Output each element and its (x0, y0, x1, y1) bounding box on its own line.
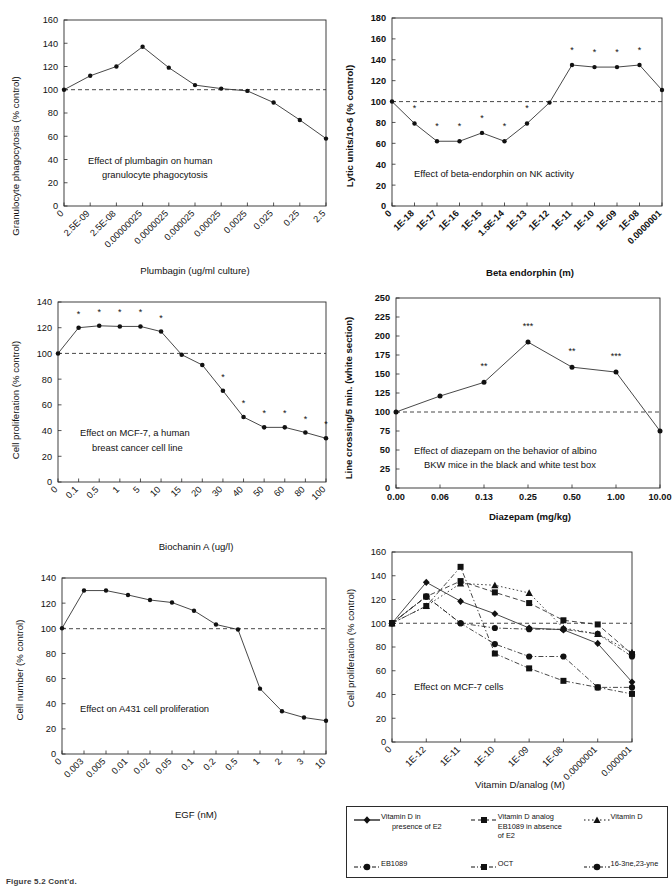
panel-annotation-line1: Effect on MCF-7, a human (80, 427, 190, 438)
svg-text:1E-09: 1E-09 (594, 208, 618, 232)
svg-text:120: 120 (43, 62, 58, 72)
svg-text:1.5E-14: 1.5E-14 (476, 208, 506, 238)
x-axis-ticklabels: 01E-121E-111E-101E-091E-080.00000010.000… (383, 739, 634, 783)
y-axis-title: Cell proliferation (% control) (10, 341, 21, 459)
svg-text:0.003: 0.003 (62, 756, 85, 779)
svg-text:5: 5 (131, 484, 142, 495)
legend-item-16-3ne-23-yne[interactable]: 16-3ne,23-yne (583, 859, 661, 873)
svg-text:**: ** (568, 346, 576, 356)
svg-text:80: 80 (42, 375, 52, 385)
svg-text:2: 2 (273, 756, 284, 767)
svg-text:0.0000001: 0.0000001 (561, 744, 599, 782)
chart-panel-beta-endorphin: Lytic units/10-6 (% control) 02040608010… (340, 6, 670, 282)
svg-text:*: * (159, 313, 163, 323)
x-axis-title: Plumbagin (ug/ml culture) (140, 265, 249, 276)
legend-item-oct[interactable]: OCT (470, 859, 583, 873)
svg-text:100: 100 (309, 484, 327, 502)
data-series (56, 323, 329, 440)
y-axis-title: Line crossing/5 min. (white section) (343, 317, 354, 480)
svg-text:0.06: 0.06 (431, 492, 449, 502)
y-axis-title: Cell number (% control) (14, 620, 25, 721)
svg-text:250: 250 (375, 293, 390, 303)
svg-text:0: 0 (49, 484, 60, 495)
svg-text:80: 80 (292, 484, 306, 498)
svg-text:0.00025: 0.00025 (192, 208, 223, 239)
svg-text:0.000001: 0.000001 (599, 744, 633, 778)
panel-annotation-line1: Effect on MCF-7 cells (414, 681, 504, 692)
svg-text:20: 20 (376, 181, 386, 191)
svg-text:*: * (638, 45, 642, 55)
svg-text:60: 60 (48, 132, 58, 142)
panel-annotation-line1: Effect of plumbagin on human (88, 155, 212, 166)
significance-markers: ********** (480, 321, 621, 371)
svg-text:*: * (615, 47, 619, 57)
svg-text:160: 160 (371, 547, 386, 557)
svg-text:*: * (324, 419, 328, 429)
svg-text:*: * (435, 121, 439, 131)
legend-label-line1: Vitamin D analog (498, 812, 554, 821)
legend-row-bottom: EB1089 OCT 16-3ne,23-yne (353, 856, 661, 876)
x-axis-ticklabels: 01E-181E-171E-161E-151.5E-141E-131E-121E… (383, 203, 664, 247)
svg-text:60: 60 (376, 139, 386, 149)
svg-text:*: * (304, 414, 308, 424)
legend-label: Vitamin D analog EB1089 in absence of E2 (498, 812, 562, 841)
svg-text:140: 140 (37, 297, 52, 307)
svg-text:0.1: 0.1 (179, 756, 195, 772)
svg-text:1E-13: 1E-13 (504, 208, 528, 232)
svg-text:2.5: 2.5 (311, 208, 327, 224)
svg-text:150: 150 (375, 369, 390, 379)
svg-text:0.25: 0.25 (281, 208, 301, 228)
x-axis-title: EGF (nM) (175, 809, 217, 820)
chart-svg-biochanin-a: Cell proliferation (% control) 020406080… (6, 288, 336, 558)
svg-text:0.2: 0.2 (201, 756, 217, 772)
data-series-multi (388, 564, 635, 697)
svg-text:0: 0 (383, 744, 394, 755)
legend-label-line3: of E2 (498, 831, 562, 841)
legend-label-line1: Vitamin D in (381, 812, 421, 821)
svg-text:120: 120 (41, 599, 56, 609)
svg-text:20: 20 (46, 724, 56, 734)
legend-item-vitamin-d[interactable]: Vitamin D (583, 812, 661, 856)
svg-text:180: 180 (371, 13, 386, 23)
svg-text:120: 120 (371, 76, 386, 86)
svg-text:100: 100 (37, 349, 52, 359)
svg-text:0.00: 0.00 (387, 492, 405, 502)
svg-text:1E-18: 1E-18 (391, 208, 415, 232)
svg-text:75: 75 (380, 426, 390, 436)
legend-item-eb1089[interactable]: EB1089 (353, 859, 470, 873)
svg-text:***: *** (611, 351, 622, 361)
legend-marker-triangle-dotted-icon (583, 814, 611, 826)
figure-caption: Figure 5.2 Cont'd. (6, 877, 77, 886)
svg-text:80: 80 (376, 642, 386, 652)
svg-text:120: 120 (37, 323, 52, 333)
svg-text:140: 140 (43, 39, 58, 49)
legend-marker-circle-dashdot-icon (353, 861, 381, 873)
svg-text:1.00: 1.00 (607, 492, 625, 502)
svg-text:225: 225 (375, 312, 390, 322)
svg-text:0: 0 (53, 756, 64, 767)
svg-text:25: 25 (380, 464, 390, 474)
x-axis-ticklabels: 02.5E-092.5E-080.000000250.00000250.0000… (55, 203, 328, 250)
svg-text:60: 60 (376, 666, 386, 676)
legend-item-vitamin-d-e2[interactable]: Vitamin D in presence of E2 (353, 812, 470, 856)
svg-text:0.025: 0.025 (252, 208, 275, 231)
svg-text:20: 20 (48, 178, 58, 188)
legend-marker-square-dashdot-icon (470, 861, 498, 873)
legend-row-top: Vitamin D in presence of E2 Vitamin D an… (353, 812, 661, 856)
svg-text:1E-11: 1E-11 (438, 744, 462, 768)
svg-text:0.02: 0.02 (132, 756, 152, 776)
data-series (62, 45, 328, 141)
legend-item-eb1089-no-e2[interactable]: Vitamin D analog EB1089 in absence of E2 (470, 812, 583, 856)
svg-text:100: 100 (375, 407, 390, 417)
svg-text:10: 10 (148, 484, 162, 498)
significance-markers: *********** (77, 307, 328, 430)
svg-text:*: * (503, 121, 507, 131)
chart-panel-diazepam: Line crossing/5 min. (white section) 025… (340, 288, 670, 558)
svg-text:***: *** (523, 321, 534, 331)
svg-text:1E-10: 1E-10 (571, 208, 595, 232)
svg-text:*: * (570, 45, 574, 55)
svg-text:*: * (242, 398, 246, 408)
svg-text:*: * (77, 309, 81, 319)
svg-text:0.0025: 0.0025 (222, 208, 249, 235)
svg-text:140: 140 (41, 573, 56, 583)
